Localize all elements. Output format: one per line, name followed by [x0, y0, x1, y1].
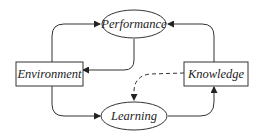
diagram-canvas: Performance Environment Knowledge Learni… — [0, 0, 265, 137]
edge-environment-to-performance — [52, 24, 100, 62]
node-learning: Learning — [101, 102, 167, 130]
node-performance: Performance — [100, 10, 167, 38]
edge-knowledge-to-performance — [168, 24, 214, 62]
node-environment: Environment — [16, 62, 83, 86]
node-learning-label: Learning — [110, 109, 157, 123]
node-knowledge-label: Knowledge — [187, 67, 245, 81]
node-knowledge: Knowledge — [184, 62, 248, 86]
edge-learning-to-knowledge — [168, 87, 214, 116]
node-environment-label: Environment — [16, 67, 82, 81]
edge-performance-to-environment — [83, 39, 134, 70]
edge-environment-to-learning — [52, 86, 100, 116]
node-performance-label: Performance — [100, 17, 167, 31]
edge-knowledge-to-learning-dashed — [134, 73, 184, 100]
